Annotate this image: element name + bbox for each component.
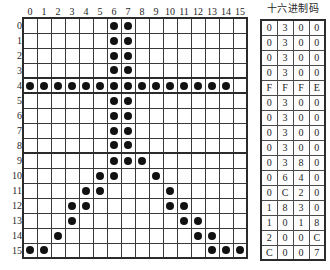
grid-cell-off[interactable] (23, 63, 37, 78)
grid-cell-off[interactable] (219, 228, 233, 243)
grid-cell-off[interactable] (233, 153, 247, 168)
grid-cell-off[interactable] (163, 108, 177, 123)
grid-cell-off[interactable] (149, 153, 163, 168)
grid-cell-off[interactable] (93, 153, 107, 168)
grid-cell-on[interactable] (121, 123, 135, 138)
grid-cell-off[interactable] (37, 168, 51, 183)
grid-cell-on[interactable] (121, 153, 135, 168)
grid-cell-off[interactable] (37, 18, 51, 33)
grid-cell-off[interactable] (177, 123, 191, 138)
grid-cell-off[interactable] (219, 198, 233, 213)
grid-cell-off[interactable] (177, 138, 191, 153)
grid-cell-off[interactable] (121, 198, 135, 213)
grid-cell-off[interactable] (233, 93, 247, 108)
grid-cell-off[interactable] (65, 168, 79, 183)
grid-cell-off[interactable] (149, 138, 163, 153)
grid-cell-off[interactable] (93, 33, 107, 48)
grid-cell-off[interactable] (135, 18, 149, 33)
grid-cell-off[interactable] (23, 198, 37, 213)
grid-cell-off[interactable] (191, 153, 205, 168)
grid-cell-off[interactable] (79, 18, 93, 33)
grid-cell-off[interactable] (219, 138, 233, 153)
grid-cell-off[interactable] (177, 168, 191, 183)
grid-cell-off[interactable] (37, 33, 51, 48)
grid-cell-off[interactable] (23, 213, 37, 228)
grid-cell-off[interactable] (205, 18, 219, 33)
grid-cell-off[interactable] (219, 33, 233, 48)
grid-cell-off[interactable] (37, 138, 51, 153)
grid-cell-off[interactable] (65, 138, 79, 153)
grid-cell-off[interactable] (205, 93, 219, 108)
grid-cell-off[interactable] (219, 183, 233, 198)
grid-cell-off[interactable] (93, 228, 107, 243)
grid-cell-off[interactable] (177, 228, 191, 243)
grid-cell-on[interactable] (149, 78, 163, 93)
grid-cell-off[interactable] (233, 63, 247, 78)
grid-cell-off[interactable] (149, 228, 163, 243)
grid-cell-off[interactable] (149, 213, 163, 228)
grid-cell-off[interactable] (149, 48, 163, 63)
grid-cell-off[interactable] (37, 153, 51, 168)
grid-cell-off[interactable] (37, 108, 51, 123)
grid-cell-on[interactable] (51, 228, 65, 243)
grid-cell-off[interactable] (233, 198, 247, 213)
grid-cell-off[interactable] (149, 108, 163, 123)
grid-cell-off[interactable] (219, 213, 233, 228)
grid-cell-off[interactable] (51, 243, 65, 258)
grid-cell-off[interactable] (177, 18, 191, 33)
grid-cell-on[interactable] (205, 78, 219, 93)
grid-cell-off[interactable] (65, 153, 79, 168)
grid-cell-off[interactable] (233, 183, 247, 198)
grid-cell-off[interactable] (219, 153, 233, 168)
grid-cell-off[interactable] (205, 108, 219, 123)
grid-cell-off[interactable] (233, 168, 247, 183)
grid-cell-off[interactable] (23, 123, 37, 138)
grid-cell-on[interactable] (191, 228, 205, 243)
grid-cell-off[interactable] (149, 183, 163, 198)
grid-cell-off[interactable] (191, 168, 205, 183)
grid-cell-off[interactable] (163, 18, 177, 33)
grid-cell-on[interactable] (135, 78, 149, 93)
grid-cell-off[interactable] (51, 198, 65, 213)
grid-cell-off[interactable] (37, 48, 51, 63)
grid-cell-on[interactable] (219, 243, 233, 258)
grid-cell-off[interactable] (205, 183, 219, 198)
grid-cell-off[interactable] (135, 138, 149, 153)
grid-cell-off[interactable] (177, 48, 191, 63)
grid-cell-off[interactable] (191, 63, 205, 78)
grid-cell-off[interactable] (65, 93, 79, 108)
grid-cell-on[interactable] (107, 108, 121, 123)
grid-cell-off[interactable] (233, 228, 247, 243)
grid-cell-off[interactable] (51, 18, 65, 33)
grid-cell-on[interactable] (107, 78, 121, 93)
grid-cell-off[interactable] (163, 228, 177, 243)
grid-cell-on[interactable] (51, 78, 65, 93)
grid-cell-off[interactable] (205, 138, 219, 153)
grid-cell-off[interactable] (191, 18, 205, 33)
grid-cell-off[interactable] (93, 138, 107, 153)
grid-cell-off[interactable] (233, 33, 247, 48)
grid-cell-off[interactable] (177, 153, 191, 168)
grid-cell-off[interactable] (191, 123, 205, 138)
grid-cell-on[interactable] (219, 78, 233, 93)
grid-cell-off[interactable] (93, 198, 107, 213)
grid-cell-off[interactable] (23, 48, 37, 63)
grid-cell-off[interactable] (177, 33, 191, 48)
grid-cell-off[interactable] (121, 243, 135, 258)
grid-cell-off[interactable] (233, 213, 247, 228)
grid-cell-off[interactable] (65, 18, 79, 33)
grid-cell-on[interactable] (93, 168, 107, 183)
grid-cell-on[interactable] (79, 183, 93, 198)
grid-cell-off[interactable] (65, 123, 79, 138)
grid-cell-off[interactable] (37, 183, 51, 198)
grid-cell-off[interactable] (219, 63, 233, 78)
grid-cell-off[interactable] (191, 243, 205, 258)
grid-cell-off[interactable] (79, 33, 93, 48)
grid-cell-off[interactable] (205, 198, 219, 213)
grid-cell-off[interactable] (79, 168, 93, 183)
grid-cell-off[interactable] (23, 138, 37, 153)
grid-cell-on[interactable] (107, 123, 121, 138)
grid-cell-off[interactable] (233, 138, 247, 153)
grid-cell-off[interactable] (79, 153, 93, 168)
grid-cell-off[interactable] (65, 243, 79, 258)
